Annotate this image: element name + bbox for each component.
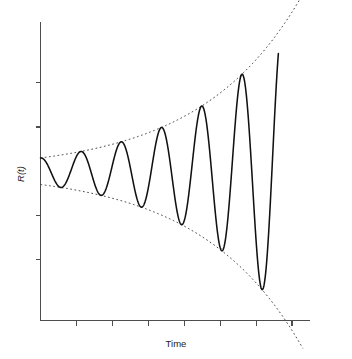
y-axis-ticks [36, 83, 41, 260]
x-axis-label: Time [0, 338, 352, 349]
y-axis-label: R(t) [15, 148, 27, 200]
axes-group [41, 22, 311, 321]
chart-figure: R(t) Time [0, 0, 352, 359]
y-axis-label-container: R(t) [8, 150, 34, 202]
upper-envelope-dashed-line [41, 0, 303, 158]
x-axis-ticks [76, 321, 292, 326]
plot-area [0, 0, 352, 359]
oscillation-curve [41, 53, 279, 289]
lower-envelope-dashed-line [41, 185, 303, 349]
